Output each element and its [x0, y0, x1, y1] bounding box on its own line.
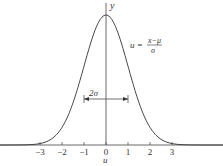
- x-axis-label: u: [103, 155, 108, 165]
- formula-numerator: x−μ: [147, 36, 161, 45]
- x-tick-label: −1: [79, 147, 89, 157]
- x-tick-label: 3: [170, 147, 175, 157]
- y-axis-label: y: [109, 0, 115, 11]
- x-tick-label: −3: [35, 147, 45, 157]
- left-arrowhead: [84, 97, 89, 101]
- bell-curve: [0, 15, 223, 145]
- right-arrowhead: [123, 97, 128, 101]
- two-sigma-label: 2σ: [89, 88, 99, 98]
- x-tick-label: 2: [148, 147, 153, 157]
- normal-distribution-diagram: y −3−2−10123 u u = x−μ σ 2σ: [0, 0, 223, 166]
- x-tick-label: −2: [57, 147, 67, 157]
- formula-lhs: u =: [130, 40, 143, 50]
- x-tick-label: 1: [126, 147, 131, 157]
- formula-denominator: σ: [151, 46, 156, 55]
